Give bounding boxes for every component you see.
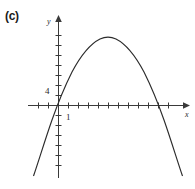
x-tick-label-1: 1 — [66, 112, 71, 122]
parabola-plot: y x 4 1 — [0, 0, 195, 189]
x-axis-arrow-icon — [183, 102, 190, 109]
y-tick-label-4: 4 — [45, 86, 50, 96]
figure-container: (c) — [0, 0, 195, 189]
y-axis-label: y — [46, 17, 51, 26]
x-axis-label: x — [184, 110, 189, 119]
sub-figure-label: (c) — [5, 9, 19, 23]
y-axis-arrow-icon — [55, 15, 62, 22]
